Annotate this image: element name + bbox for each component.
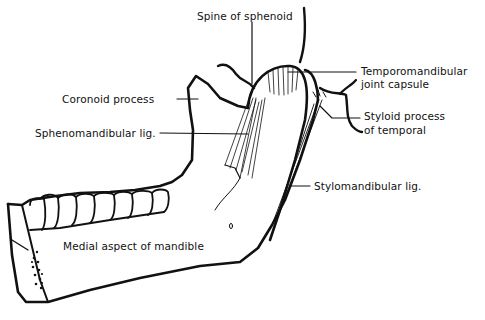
sphenoid-spine (218, 65, 254, 88)
label-tmj-capsule-2: joint capsule (361, 78, 429, 91)
label-tmj-capsule-1: Temporomandibular (361, 65, 468, 78)
label-spine-of-sphenoid: Spine of sphenoid (197, 10, 293, 23)
label-coronoid-process: Coronoid process (62, 93, 154, 106)
label-styloid-process-1: Styloid process (364, 110, 445, 123)
label-styloid-process-2: of temporal (364, 124, 426, 137)
label-stylomandibular-lig: Stylomandibular lig. (314, 180, 421, 193)
label-sphenomandibular-lig: Sphenomandibular lig. (35, 127, 156, 140)
tmj-capsule (268, 67, 298, 95)
styloid-process (320, 88, 362, 132)
mandibular-foramen (230, 223, 233, 228)
bone-section (22, 205, 48, 302)
teeth (30, 190, 169, 231)
stylomandibular-ligament (272, 100, 322, 225)
mandible-diagram (0, 0, 485, 320)
label-medial-aspect: Medial aspect of mandible (63, 240, 204, 253)
